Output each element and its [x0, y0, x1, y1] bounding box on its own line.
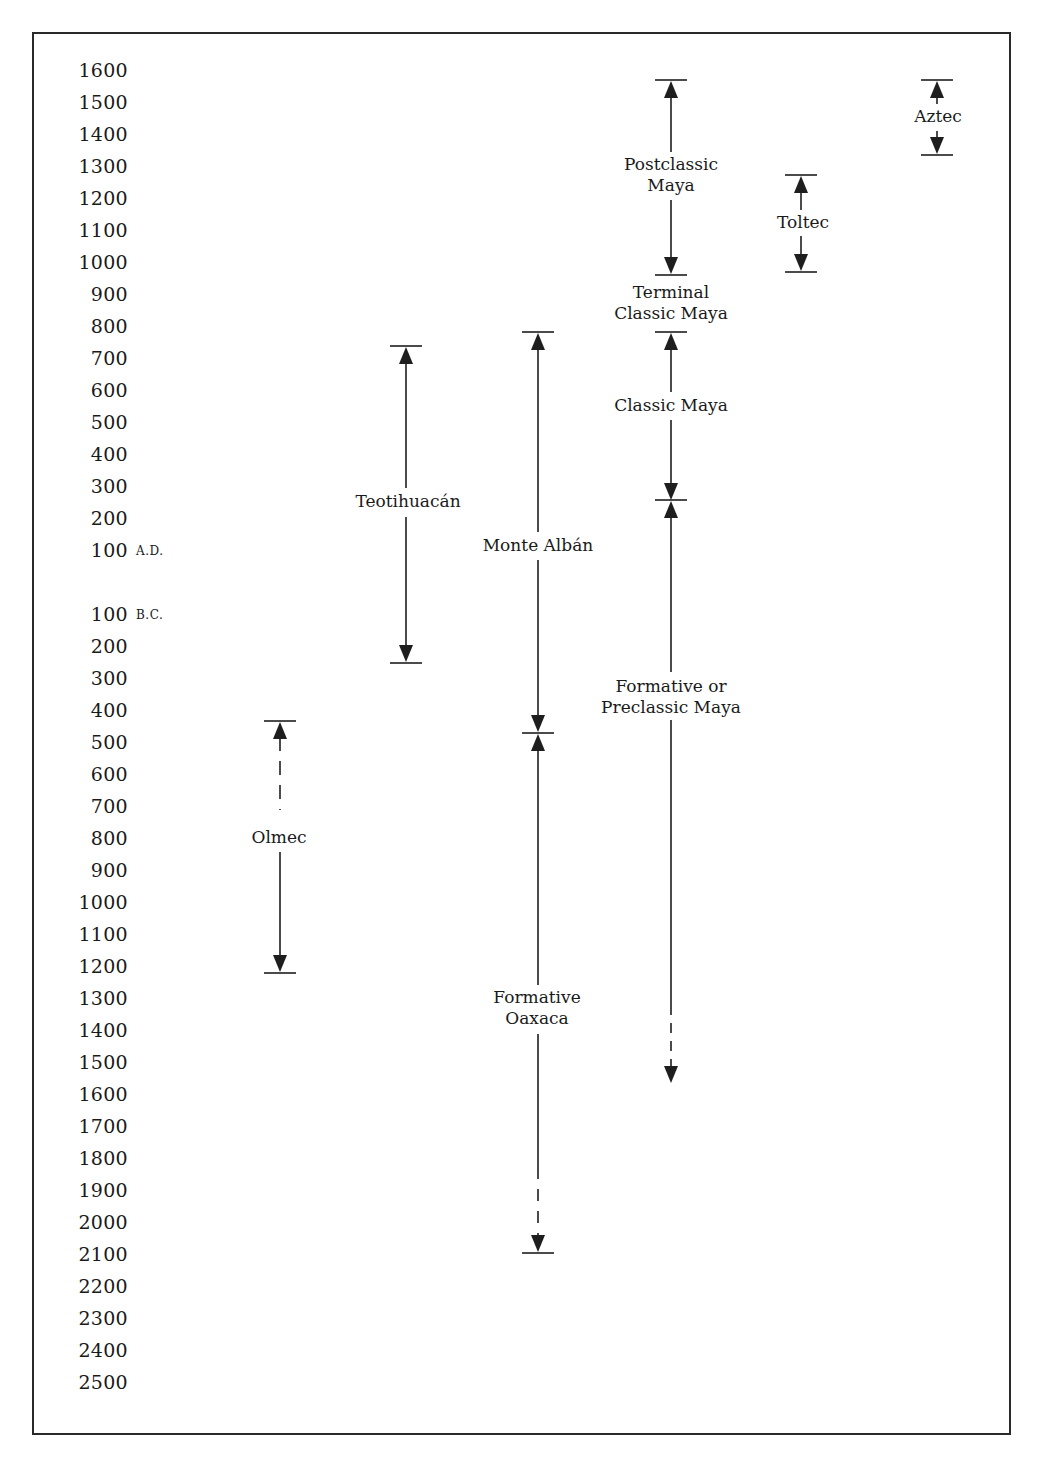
arrow-down-icon: [399, 645, 413, 662]
label-terminal-classic-maya: Terminal Classic Maya: [614, 282, 728, 324]
arrow-down-icon: [664, 483, 678, 500]
arrow-down-icon: [794, 254, 808, 271]
arrow-down-icon: [664, 1066, 678, 1083]
arrow-down-icon: [273, 955, 287, 972]
arrow-down-icon: [930, 137, 944, 154]
label-toltec: Toltec: [777, 212, 829, 233]
arrow-down-icon: [531, 1235, 545, 1252]
arrow-up-icon: [531, 734, 545, 751]
label-preclassic-maya: Formative or Preclassic Maya: [601, 676, 741, 718]
label-monte-alban: Monte Albán: [483, 535, 594, 556]
label-classic-maya: Classic Maya: [614, 395, 728, 416]
arrow-down-icon: [664, 257, 678, 274]
arrow-up-icon: [273, 722, 287, 739]
label-aztec: Aztec: [914, 106, 962, 127]
arrow-up-icon: [399, 347, 413, 364]
label-formative-oaxaca: Formative Oaxaca: [493, 987, 580, 1029]
arrow-up-icon: [531, 333, 545, 350]
label-postclassic-maya: Postclassic Maya: [624, 154, 718, 196]
timeline-plot: [0, 0, 1039, 1464]
label-teotihuacan: Teotihuacán: [355, 491, 460, 512]
label-olmec: Olmec: [251, 827, 306, 848]
arrow-down-icon: [531, 715, 545, 732]
arrow-up-icon: [664, 333, 678, 350]
